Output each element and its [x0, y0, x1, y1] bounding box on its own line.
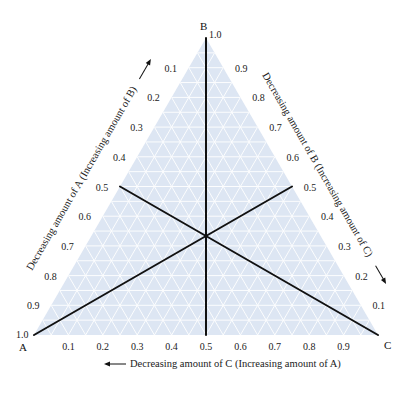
right-tick-0.4: 0.4 [321, 211, 334, 222]
bottom-tick-0.7: 0.7 [269, 341, 282, 352]
right-tick-0.1: 0.1 [373, 300, 386, 311]
right-tick-0.3: 0.3 [338, 241, 351, 252]
left-tick-0.6: 0.6 [79, 211, 92, 222]
right-tick-0.2: 0.2 [355, 271, 368, 282]
left-tick-0.5: 0.5 [96, 182, 109, 193]
bottom-tick-0.2: 0.2 [97, 341, 110, 352]
left-tick-0.3: 0.3 [130, 122, 143, 133]
bottom-tick-0.6: 0.6 [234, 341, 247, 352]
bottom-axis-title: Decreasing amount of C (Increasing amoun… [130, 358, 341, 370]
bottom-tick-0.3: 0.3 [131, 341, 144, 352]
right-arrowhead-icon [381, 277, 388, 285]
vertex-b-value: 1.0 [209, 29, 222, 40]
left-tick-0.9: 0.9 [27, 300, 40, 311]
bottom-axis-title-group: Decreasing amount of C (Increasing amoun… [104, 358, 341, 370]
vertex-c-label: C [384, 339, 391, 351]
left-tick-0.8: 0.8 [44, 271, 57, 282]
right-tick-0.8: 0.8 [252, 92, 265, 103]
bottom-tick-0.5: 0.5 [200, 341, 213, 352]
left-tick-0.1: 0.1 [165, 63, 178, 74]
bottom-arrowhead-icon [104, 362, 110, 367]
right-tick-0.9: 0.9 [235, 63, 248, 74]
vertex-a-label: A [19, 341, 27, 353]
bottom-tick-0.9: 0.9 [337, 341, 350, 352]
left-tick-0.2: 0.2 [147, 92, 160, 103]
bottom-tick-0.4: 0.4 [165, 341, 178, 352]
right-tick-0.6: 0.6 [287, 152, 300, 163]
ternary-diagram: A 1.0 B 1.0 C 0.10.20.30.40.50.60.70.80.… [0, 0, 414, 393]
bottom-tick-0.8: 0.8 [303, 341, 316, 352]
vertex-b-label: B [200, 20, 207, 32]
right-tick-0.5: 0.5 [304, 182, 317, 193]
left-tick-0.4: 0.4 [113, 152, 126, 163]
right-tick-0.7: 0.7 [269, 122, 282, 133]
bottom-tick-0.1: 0.1 [62, 341, 75, 352]
bottom-axis-ticks: 0.10.20.30.40.50.60.70.80.9 [62, 341, 350, 352]
left-arrowhead-icon [146, 58, 153, 66]
left-tick-0.7: 0.7 [61, 241, 74, 252]
vertex-a-value: 1.0 [16, 329, 29, 340]
